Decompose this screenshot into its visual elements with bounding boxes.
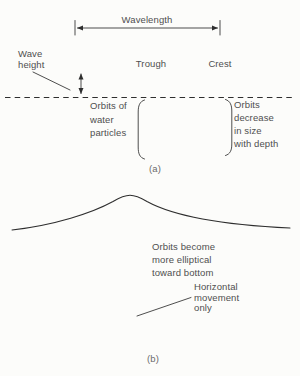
panel-a-caption: (a) — [149, 163, 161, 174]
wavelength-dimension: Wavelength — [75, 14, 220, 36]
orbits-become-label: Orbits become — [152, 241, 215, 252]
horizontal-movement-label: movement — [194, 292, 239, 303]
panel-b-caption: (b) — [147, 353, 159, 364]
horizontal-movement-leader-line — [137, 298, 191, 317]
horizontal-movement-label: Horizontal — [194, 281, 238, 292]
wave-crest-curve — [12, 195, 290, 230]
horizontal-movement-label: only — [194, 302, 212, 313]
orbits-decrease-label: Orbits — [234, 99, 260, 110]
wave-height-leader-line — [33, 72, 70, 90]
panel-a: Wavelength Wave height Trough Crest Orbi… — [5, 14, 292, 175]
orbits-of-water-label: water — [89, 114, 114, 125]
wave-orbits-figure: Wavelength Wave height Trough Crest Orbi… — [0, 0, 300, 376]
wave-height-label: height — [18, 59, 45, 70]
panel-b: Orbits become more elliptical toward bot… — [12, 195, 290, 364]
orbits-decrease-label: in size — [234, 125, 262, 136]
trough-label: Trough — [136, 58, 166, 69]
right-bracket — [226, 100, 232, 156]
orbits-become-label: toward bottom — [152, 267, 214, 278]
orbits-become-label: more elliptical — [152, 254, 212, 265]
wavelength-label: Wavelength — [122, 14, 173, 25]
orbits-of-water-label: particles — [90, 127, 126, 138]
left-bracket — [138, 100, 144, 159]
crest-label: Crest — [208, 58, 231, 69]
wave-height-label: Wave — [18, 48, 42, 59]
orbits-of-water-label: Orbits of — [90, 100, 127, 111]
orbits-decrease-label: with depth — [233, 138, 278, 149]
wave-orbit-diagram: Wavelength Wave height Trough Crest Orbi… — [0, 0, 300, 376]
orbits-decrease-label: decrease — [234, 112, 274, 123]
